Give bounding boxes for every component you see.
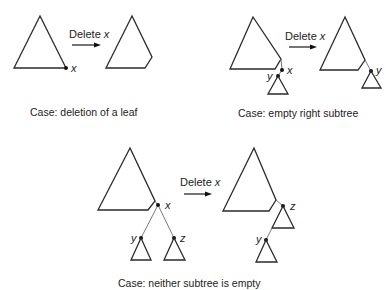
tree-pentagon xyxy=(320,17,365,70)
tree-pentagon xyxy=(106,16,152,68)
svg-text:Deletex: Deletex xyxy=(180,176,221,188)
node-x xyxy=(280,68,284,72)
tree-pentagon xyxy=(223,148,276,211)
tree-pentagon xyxy=(230,17,281,69)
delete-var: x xyxy=(319,30,326,42)
node-x xyxy=(156,203,160,207)
delete-label: Delete xyxy=(69,28,101,40)
delete-operation: Deletex xyxy=(180,176,221,197)
bst-deletion-diagram: x Deletex Case: deletion of a leaf x y D… xyxy=(0,0,386,290)
node-x xyxy=(64,66,68,70)
after-tree xyxy=(106,16,152,68)
panel-neither-subtree-empty: x y z Deletex z y Case: neither subtree … xyxy=(98,148,296,289)
caption-empty-right: Case: empty right subtree xyxy=(238,107,358,119)
before-tree: x y z xyxy=(98,148,186,260)
label-y: y xyxy=(266,70,274,82)
arrow-right-icon xyxy=(94,43,101,48)
delete-label: Delete xyxy=(285,30,317,42)
panel-leaf-deletion: x Deletex Case: deletion of a leaf xyxy=(14,16,152,118)
label-y: y xyxy=(255,233,263,245)
label-x: x xyxy=(286,64,293,76)
arrow-right-icon xyxy=(310,45,317,50)
delete-operation: Deletex xyxy=(285,30,326,50)
delete-var: x xyxy=(103,28,110,40)
svg-text:Deletex: Deletex xyxy=(69,28,110,40)
panel-empty-right-subtree: x y Deletex y Case: empty right subtree xyxy=(230,17,383,119)
delete-var: x xyxy=(214,176,221,188)
after-tree: z y xyxy=(223,148,296,262)
label-y: y xyxy=(130,232,138,244)
label-y: y xyxy=(375,64,383,76)
label-x: x xyxy=(164,199,171,211)
delete-label: Delete xyxy=(180,176,212,188)
before-tree: x xyxy=(14,16,77,74)
before-tree: x y xyxy=(230,17,293,94)
label-z: z xyxy=(289,200,296,212)
arrow-right-icon xyxy=(205,192,212,197)
tree-pentagon xyxy=(98,148,155,210)
svg-text:Deletex: Deletex xyxy=(285,30,326,42)
caption-leaf: Case: deletion of a leaf xyxy=(30,106,137,118)
label-x: x xyxy=(70,62,77,74)
delete-operation: Deletex xyxy=(69,28,110,48)
edge-z-to-y xyxy=(266,228,272,240)
tree-triangle xyxy=(14,16,66,68)
label-z: z xyxy=(179,232,186,244)
after-tree: y xyxy=(320,17,383,88)
caption-neither-empty: Case: neither subtree is empty xyxy=(118,277,261,289)
